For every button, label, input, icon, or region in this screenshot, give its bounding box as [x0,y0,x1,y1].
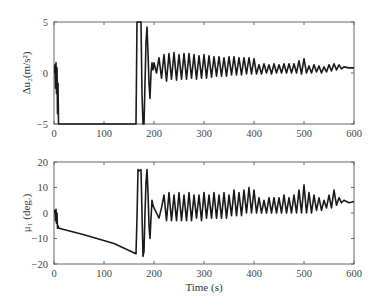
top-series-line [54,22,354,124]
top-x-ticks [54,22,354,124]
bottom-x-axis-label: Time (s) [185,281,223,294]
bottom-subplot: 20 10 0 −10 −20 0 100 200 300 400 500 60… [20,157,362,294]
bottom-y-ticks [54,162,354,264]
bottom-xtick-400: 400 [246,268,262,279]
bottom-ytick-neg10: −10 [32,233,48,244]
top-y-ticks [54,22,354,124]
top-xtick-500: 500 [296,128,312,139]
bottom-ytick-20: 20 [38,157,49,168]
bottom-y-axis-label: μ₁ (deg.) [20,193,33,232]
bottom-x-ticks [54,162,354,264]
bottom-ytick-10: 10 [38,182,49,193]
top-ytick-neg5: −5 [37,119,48,130]
top-xtick-400: 400 [246,128,262,139]
bottom-plot-frame [54,162,354,264]
top-xtick-300: 300 [196,128,212,139]
top-ytick-0: 0 [43,68,48,79]
figure: 5 0 −5 0 100 200 300 400 500 600 Δu₂(m/s… [0,0,381,305]
bottom-xtick-200: 200 [146,268,162,279]
top-ytick-5: 5 [43,17,48,28]
bottom-xtick-100: 100 [96,268,112,279]
top-subplot: 5 0 −5 0 100 200 300 400 500 600 Δu₂(m/s… [20,17,362,139]
bottom-xtick-600: 600 [346,268,362,279]
bottom-series-line [54,170,354,257]
bottom-ytick-0: 0 [43,208,48,219]
bottom-xtick-300: 300 [196,268,212,279]
top-xtick-600: 600 [346,128,362,139]
bottom-xtick-0: 0 [51,268,56,279]
top-xtick-0: 0 [51,128,56,139]
bottom-xtick-500: 500 [296,268,312,279]
bottom-ytick-neg20: −20 [32,259,48,270]
top-xtick-200: 200 [146,128,162,139]
top-xtick-100: 100 [96,128,112,139]
top-y-axis-label: Δu₂(m/s²) [20,51,33,94]
top-plot-frame [54,22,354,124]
